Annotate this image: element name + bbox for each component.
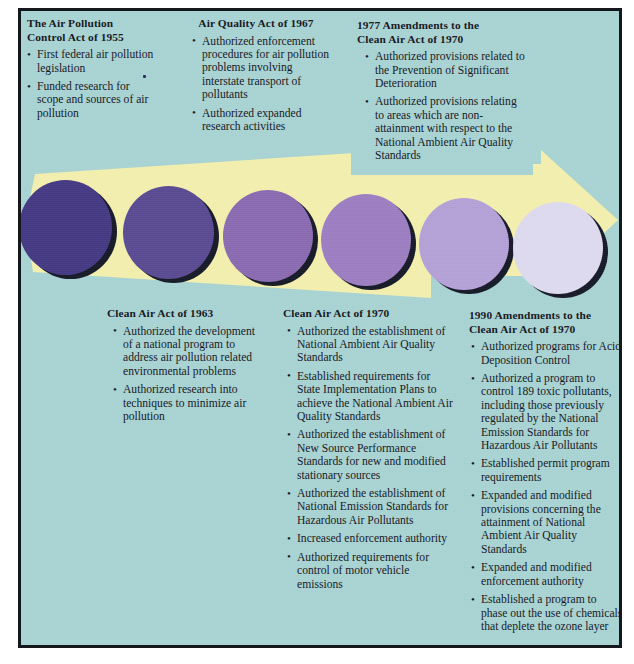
block-act-1955: The Air Pollution Control Act of 1955 Fi… — [27, 17, 157, 125]
block-amend-1977-bullets: Authorized provisions related to the Pre… — [365, 50, 527, 162]
bullet-item: Authorized the development of a national… — [113, 325, 259, 379]
block-amend-1977: 1977 Amendments to the Clean Air Act of … — [351, 15, 533, 175]
bullet-item: Expanded and modified provisions concern… — [471, 489, 622, 556]
marker-circle-1963 — [123, 186, 214, 279]
block-act-1963: Clean Air Act of 1963 Authorized the dev… — [107, 307, 259, 428]
bullet-item: Authorized the establishment of New Sour… — [287, 428, 455, 482]
bullet-item: Authorized programs for Acid Deposition … — [471, 340, 622, 367]
bullet-item: Authorized research into techniques to m… — [113, 383, 259, 423]
bullet-item: Established permit program requirements — [471, 457, 622, 484]
block-amend-1990-title: 1990 Amendments to the Clean Air Act of … — [469, 309, 622, 336]
marker-circle-1970 — [321, 194, 411, 286]
bullet-item: Funded research for scope and sources of… — [27, 80, 157, 120]
block-amend-1990-bullets: Authorized programs for Acid Deposition … — [471, 340, 622, 633]
marker-circle-1977 — [419, 198, 509, 290]
marker-circle-1990 — [513, 202, 603, 294]
block-act-1967-title: Air Quality Act of 1967 — [182, 17, 330, 31]
bullet-item: Authorized the establishment of National… — [287, 325, 455, 365]
bullet-item: Authorized a program to control 189 toxi… — [471, 372, 622, 452]
bullet-item: Established a program to phase out the u… — [471, 593, 622, 633]
block-act-1967-bullets: Authorized enforcement procedures for ai… — [192, 35, 330, 134]
block-act-1955-bullets: First federal air pollution legislation … — [27, 48, 157, 120]
bullet-item: First federal air pollution legislation — [27, 48, 157, 75]
bullet-item: Authorized the establishment of National… — [287, 487, 455, 527]
diagram-frame: The Air Pollution Control Act of 1955 Fi… — [18, 8, 622, 648]
block-act-1970-bullets: Authorized the establishment of National… — [287, 325, 455, 591]
block-act-1955-title: The Air Pollution Control Act of 1955 — [27, 17, 157, 44]
block-act-1967: Air Quality Act of 1967 Authorized enfor… — [182, 17, 330, 138]
bullet-item: Authorized enforcement procedures for ai… — [192, 35, 330, 102]
block-act-1970: Clean Air Act of 1970 Authorized the est… — [283, 307, 455, 596]
block-act-1963-title: Clean Air Act of 1963 — [107, 307, 259, 321]
block-act-1963-bullets: Authorized the development of a national… — [113, 325, 259, 424]
block-act-1970-title: Clean Air Act of 1970 — [283, 307, 455, 321]
bullet-item: Authorized requirements for control of m… — [287, 551, 455, 591]
marker-circle-1955 — [19, 180, 112, 275]
block-amend-1990: 1990 Amendments to the Clean Air Act of … — [465, 307, 622, 642]
bullet-item: Authorized provisions relating to areas … — [365, 95, 527, 162]
artifact-speck — [143, 75, 146, 78]
bullet-item: Expanded and modified enforcement author… — [471, 561, 622, 588]
marker-circle-1967 — [223, 190, 313, 282]
bullet-item: Established requirements for State Imple… — [287, 370, 455, 424]
bullet-item: Authorized expanded research activities — [192, 107, 330, 134]
block-amend-1977-title: 1977 Amendments to the Clean Air Act of … — [357, 19, 527, 46]
bullet-item: Authorized provisions related to the Pre… — [365, 50, 527, 90]
bullet-item: Increased enforcement authority — [287, 532, 455, 545]
diagram-page: The Air Pollution Control Act of 1955 Fi… — [0, 0, 634, 664]
